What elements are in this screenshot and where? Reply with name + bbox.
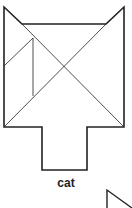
cat-outline	[4, 7, 124, 170]
piece-edge	[4, 38, 33, 66]
piece-edge	[4, 24, 106, 127]
partial-triangle	[107, 190, 132, 208]
figure-caption: cat	[0, 176, 132, 190]
piece-edge	[22, 24, 124, 127]
